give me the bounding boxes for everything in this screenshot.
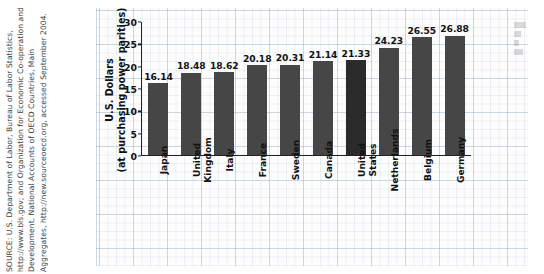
x-category-label-france: France [258, 143, 269, 177]
plot-panel: U.S. Dollars (at purchasing power pariti… [97, 8, 493, 236]
artifact-sliver [514, 22, 526, 28]
bar-slot: 26.55 [405, 22, 438, 155]
bar-japan[interactable]: 16.14 [148, 83, 168, 154]
bar-slot: 20.31 [274, 22, 307, 155]
x-category-line: Sweden [291, 140, 302, 180]
bar-united-states[interactable]: 21.33 [346, 60, 366, 154]
x-category-line: Germany [456, 137, 467, 183]
source-citation: SOURCE: U.S. Department of Labor, Bureau… [4, 0, 96, 274]
y-tick-mark [138, 155, 141, 156]
x-category-slot: Belgium [406, 158, 439, 228]
bar-slot: 16.14 [142, 22, 175, 155]
bar-slot: 26.88 [438, 22, 471, 155]
plot-inner: 051015202530 16.1418.4818.6220.1820.3121… [141, 22, 471, 156]
scan-edge-artifact [514, 22, 526, 74]
x-category-label-belgium: Belgium [423, 139, 434, 181]
artifact-sliver [514, 31, 521, 37]
x-category-label-netherlands: Netherlands [390, 129, 401, 192]
source-citation-text: SOURCE: U.S. Department of Labor, Bureau… [4, 4, 49, 274]
x-axis-line [141, 155, 471, 156]
bar-italy[interactable]: 18.62 [214, 72, 234, 154]
bar-value-label: 16.14 [144, 71, 173, 82]
bar-belgium[interactable]: 26.55 [412, 37, 432, 154]
x-category-line: Canada [324, 141, 335, 179]
bar-slot: 20.18 [241, 22, 274, 155]
x-category-slot: Japan [142, 158, 175, 228]
x-category-line: United [192, 137, 203, 182]
plot-area: 051015202530 16.1418.4818.6220.1820.3121… [141, 22, 471, 156]
bar-value-label: 18.62 [210, 60, 239, 71]
page-canvas: SOURCE: U.S. Department of Labor, Bureau… [0, 0, 544, 274]
y-tick-mark [138, 21, 141, 22]
y-tick-label: 0 [131, 151, 137, 162]
bar-value-label: 20.31 [276, 52, 305, 63]
x-category-slot: Italy [208, 158, 241, 228]
y-tick-label: 20 [124, 61, 137, 72]
bar-value-label: 26.55 [407, 25, 436, 36]
x-category-slot: UnitedKingdom [175, 158, 208, 228]
x-category-line: Belgium [423, 139, 434, 181]
x-category-label-japan: Japan [159, 146, 170, 175]
bar-value-label: 26.88 [440, 23, 469, 34]
bar-value-label: 18.48 [177, 60, 206, 71]
x-category-slot: Germany [439, 158, 472, 228]
bar-slot: 18.48 [175, 22, 208, 155]
x-category-label-sweden: Sweden [291, 140, 302, 180]
bar-value-label: 21.14 [309, 49, 338, 60]
x-category-slot: France [241, 158, 274, 228]
y-tick-mark [138, 111, 141, 112]
y-tick-label: 5 [131, 128, 137, 139]
x-axis-categories: JapanUnitedKingdomItalyFranceSwedenCanad… [142, 158, 472, 228]
bar-slot: 21.33 [339, 22, 372, 155]
y-tick-label: 10 [124, 106, 137, 117]
x-category-slot: Sweden [274, 158, 307, 228]
bar-value-label: 24.23 [375, 35, 404, 46]
x-category-slot: UnitedStates [340, 158, 373, 228]
artifact-sliver [514, 49, 523, 55]
y-tick-label: 15 [124, 84, 137, 95]
artifact-sliver [514, 40, 519, 46]
y-tick-mark [138, 44, 141, 45]
x-category-line: Italy [225, 149, 236, 172]
bar-value-label: 20.18 [243, 53, 272, 64]
y-tick-mark [138, 88, 141, 89]
x-category-line: France [258, 143, 269, 177]
y-tick-label: 30 [124, 17, 137, 28]
x-category-line: Netherlands [390, 129, 401, 192]
y-tick-mark [138, 133, 141, 134]
x-category-slot: Canada [307, 158, 340, 228]
bar-series: 16.1418.4818.6220.1820.3121.1421.3324.23… [142, 22, 471, 155]
x-category-line: Japan [159, 146, 170, 175]
bar-value-label: 21.33 [342, 48, 371, 59]
chart-figure: U.S. Dollars (at purchasing power pariti… [96, 8, 528, 266]
y-axis-title-line1: U.S. Dollars [104, 58, 117, 121]
x-category-slot: Netherlands [373, 158, 406, 228]
y-tick-mark [138, 66, 141, 67]
x-category-label-canada: Canada [324, 141, 335, 179]
x-category-label-germany: Germany [456, 137, 467, 183]
bar-slot: 18.62 [208, 22, 241, 155]
x-category-label-italy: Italy [225, 149, 236, 172]
y-tick-label: 25 [124, 39, 137, 50]
bar-france[interactable]: 20.18 [247, 65, 267, 154]
x-category-line: United [357, 143, 368, 177]
bar-slot: 21.14 [307, 22, 340, 155]
